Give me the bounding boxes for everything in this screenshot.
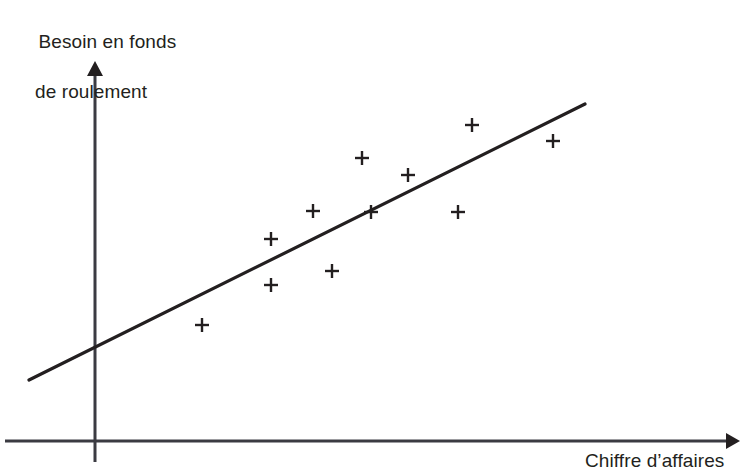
data-points-group	[195, 118, 560, 332]
data-point-marker	[264, 278, 278, 292]
data-point-marker	[306, 204, 320, 218]
data-point-marker	[546, 134, 560, 148]
data-point-marker	[195, 318, 209, 332]
data-point-marker	[401, 168, 415, 182]
data-point-marker	[465, 118, 479, 132]
x-axis-arrowhead	[726, 433, 740, 449]
y-axis-title-line-1: Besoin en fonds	[39, 31, 177, 52]
data-point-marker	[264, 232, 278, 246]
y-axis-title: Besoin en fonds de roulement	[17, 4, 176, 154]
y-axis-title-line-2: de roulement	[17, 79, 176, 104]
data-point-marker	[325, 264, 339, 278]
x-axis-title: Chiffre d’affaires	[585, 448, 724, 473]
data-point-marker	[451, 205, 465, 219]
data-point-marker	[355, 151, 369, 165]
scatter-plot-figure: Besoin en fonds de roulement Chiffre d’a…	[0, 0, 750, 475]
